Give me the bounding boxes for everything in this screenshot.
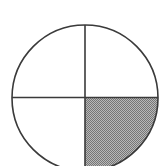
- bottom-right-quadrant: [85, 98, 168, 166]
- quartered-circle-figure: [0, 0, 168, 166]
- figure-canvas: [0, 0, 168, 166]
